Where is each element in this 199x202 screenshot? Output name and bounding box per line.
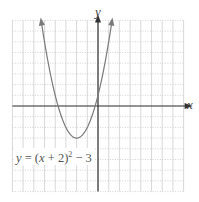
equation-part: − 3 (72, 151, 92, 165)
equation-part: = ( (22, 151, 39, 165)
equation-part: + 2) (45, 151, 69, 165)
equation-label: y = (x + 2)2 − 3 (14, 148, 94, 165)
coordinate-plane (0, 0, 199, 202)
x-axis-label: x (187, 98, 193, 111)
y-axis-label: y (95, 5, 101, 18)
